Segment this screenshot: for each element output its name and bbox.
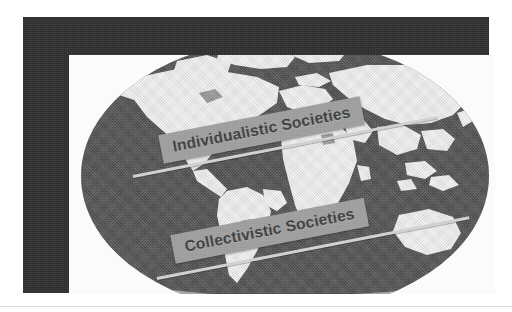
world-map-image: Individualistic Societies Collectivistic…: [69, 55, 495, 294]
page-bottom-rule: [0, 306, 512, 307]
figure-canvas: Individualistic Societies Collectivistic…: [0, 0, 512, 312]
image-frame: Individualistic Societies Collectivistic…: [23, 17, 489, 293]
page-bottom-shade: [0, 307, 512, 312]
